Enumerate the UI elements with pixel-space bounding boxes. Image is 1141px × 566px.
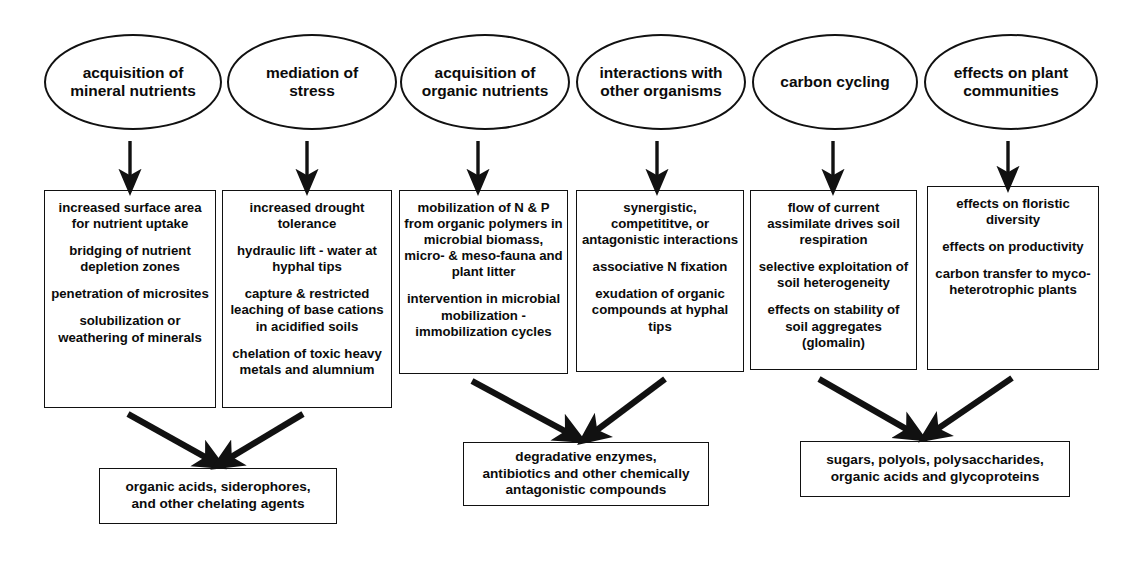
oval-label-line: mineral nutrients bbox=[70, 82, 196, 100]
diagram-canvas: acquisition of mineral nutrients mediati… bbox=[0, 0, 1141, 566]
arrow-diagonal-organic-to-antagonistic bbox=[472, 381, 574, 436]
box-outcome-chelating-agents: organic acids, siderophores, and other c… bbox=[99, 468, 337, 524]
outcome-line: sugars, polyols, polysaccharides, bbox=[826, 452, 1044, 469]
oval-label-line: stress bbox=[266, 82, 358, 100]
arrow-diagonal-plants-to-sugars bbox=[930, 378, 1012, 434]
outcome-line: organic acids, siderophores, bbox=[125, 479, 310, 496]
box-paragraph: synergistic, competititve, or antagonist… bbox=[581, 200, 739, 248]
oval-label-line: effects on plant bbox=[954, 64, 1069, 82]
box-paragraph: exudation of organic compounds at hyphal… bbox=[581, 286, 739, 334]
oval-label-line: acquisition of bbox=[422, 64, 549, 82]
box-plant-communities-details: effects on floristic diversity effects o… bbox=[927, 186, 1099, 370]
box-organic-nutrients-details: mobilization of N & P from organic polym… bbox=[399, 190, 568, 374]
box-paragraph: capture & restricted leaching of base ca… bbox=[227, 286, 387, 334]
outcome-line: antibiotics and other chemically bbox=[483, 466, 690, 483]
outcome-line: antagonistic compounds bbox=[483, 482, 690, 499]
oval-carbon-cycling: carbon cycling bbox=[752, 34, 918, 130]
box-paragraph: carbon transfer to myco-heterotrophic pl… bbox=[932, 266, 1094, 298]
arrow-oval-to-box-group bbox=[130, 141, 1008, 183]
box-carbon-cycling-details: flow of current assimilate drives soil r… bbox=[750, 190, 917, 370]
box-paragraph: hydraulic lift - water at hyphal tips bbox=[227, 243, 387, 275]
box-paragraph: selective exploitation of soil heterogen… bbox=[755, 259, 912, 291]
box-paragraph: intervention in microbial mobilization -… bbox=[404, 291, 563, 339]
oval-label-line: other organisms bbox=[599, 82, 722, 100]
outcome-line: degradative enzymes, bbox=[483, 449, 690, 466]
box-paragraph: effects on stability of soil aggregates … bbox=[755, 302, 912, 350]
box-mediation-stress-details: increased drought tolerance hydraulic li… bbox=[222, 190, 392, 408]
oval-label-line: organic nutrients bbox=[422, 82, 549, 100]
box-paragraph: bridging of nutrient depletion zones bbox=[49, 243, 211, 275]
box-paragraph: chelation of toxic heavy metals and alum… bbox=[227, 346, 387, 378]
arrow-diagonal-carbon-to-sugars bbox=[819, 379, 915, 434]
box-paragraph: effects on floristic diversity bbox=[932, 196, 1094, 228]
box-outcome-antagonistic-compounds: degradative enzymes, antibiotics and oth… bbox=[463, 442, 709, 506]
box-outcome-sugars-glycoproteins: sugars, polyols, polysaccharides, organi… bbox=[800, 441, 1070, 497]
arrow-diagonal-mineral-to-chelating bbox=[128, 414, 214, 462]
oval-label-line: communities bbox=[954, 82, 1069, 100]
box-paragraph: mobilization of N & P from organic polym… bbox=[404, 200, 563, 280]
box-paragraph: penetration of microsites bbox=[49, 286, 211, 302]
arrow-diagonal-stress-to-chelating bbox=[223, 414, 303, 462]
oval-interactions-other-organisms: interactions with other organisms bbox=[576, 34, 746, 130]
box-paragraph: flow of current assimilate drives soil r… bbox=[755, 200, 912, 248]
box-paragraph: increased surface area for nutrient upta… bbox=[49, 200, 211, 232]
oval-acquisition-mineral-nutrients: acquisition of mineral nutrients bbox=[44, 34, 222, 130]
oval-acquisition-organic-nutrients: acquisition of organic nutrients bbox=[400, 34, 570, 130]
oval-label-line: carbon cycling bbox=[780, 73, 889, 91]
oval-label-line: interactions with bbox=[599, 64, 722, 82]
box-paragraph: increased drought tolerance bbox=[227, 200, 387, 232]
box-paragraph: effects on productivity bbox=[932, 239, 1094, 255]
box-paragraph: solubilization or weathering of minerals bbox=[49, 313, 211, 345]
oval-label-line: mediation of bbox=[266, 64, 358, 82]
box-interactions-details: synergistic, competititve, or antagonist… bbox=[576, 190, 744, 372]
outcome-line: and other chelating agents bbox=[125, 496, 310, 513]
box-mineral-nutrients-details: increased surface area for nutrient upta… bbox=[44, 190, 216, 408]
box-paragraph: associative N fixation bbox=[581, 259, 739, 275]
oval-effects-on-plant-communities: effects on plant communities bbox=[924, 34, 1098, 130]
outcome-line: organic acids and glycoproteins bbox=[826, 469, 1044, 486]
oval-mediation-of-stress: mediation of stress bbox=[227, 34, 397, 130]
oval-label-line: acquisition of bbox=[70, 64, 196, 82]
arrow-diagonal-interactions-to-antagonistic bbox=[589, 379, 665, 436]
